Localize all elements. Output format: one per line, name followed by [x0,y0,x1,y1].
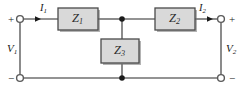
current-arrow-i1 [35,16,41,22]
impedance-label-z2: Z2 [169,12,180,26]
impedance-label-z1: Z1 [72,12,83,26]
polarity-sign-input-negative: − [8,73,14,84]
polarity-sign-output-positive: + [229,14,235,25]
two-port-network-diagram: Z1 Z3 Z2 I1 I2 V1 V2 + − + − [0,0,241,96]
terminal-input-positive [17,16,24,23]
node-dot-top [119,16,125,22]
polarity-sign-output-negative: − [229,73,235,84]
voltage-label-v1: V1 [7,43,17,56]
current-label-i2: I2 [199,3,206,14]
current-label-i1: I1 [40,3,47,14]
voltage-label-v2: V2 [226,43,236,56]
terminal-output-positive [218,16,225,23]
impedance-label-z3: Z3 [114,44,125,58]
node-dot-bottom [119,75,125,81]
polarity-sign-input-positive: + [8,14,14,25]
terminal-input-negative [17,75,24,82]
current-arrow-i2 [207,16,213,22]
terminal-output-negative [218,75,225,82]
